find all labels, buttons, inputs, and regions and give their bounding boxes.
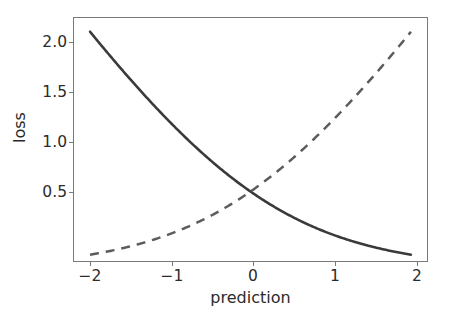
y-axis-label: loss xyxy=(10,83,29,173)
x-axis-label: prediction xyxy=(73,288,428,307)
xtick-label: 0 xyxy=(233,267,273,285)
xtick-label: −1 xyxy=(152,267,192,285)
xtick-mark xyxy=(172,262,173,266)
ytick-mark xyxy=(69,92,73,93)
curves-svg xyxy=(74,18,427,261)
xtick-mark xyxy=(335,262,336,266)
ytick-mark xyxy=(69,42,73,43)
series-solid-line xyxy=(90,32,411,255)
xtick-label: 1 xyxy=(315,267,355,285)
ytick-mark xyxy=(69,142,73,143)
series-dashed-line xyxy=(90,32,411,255)
xtick-mark xyxy=(90,262,91,266)
ytick-label: 0.5 xyxy=(17,183,67,201)
xtick-mark xyxy=(253,262,254,266)
xtick-label: −2 xyxy=(70,267,110,285)
ytick-label: 2.0 xyxy=(17,33,67,51)
xtick-mark xyxy=(417,262,418,266)
plot-area xyxy=(73,17,428,262)
ytick-mark xyxy=(69,192,73,193)
xtick-label: 2 xyxy=(397,267,437,285)
chart-figure: −2 −1 0 1 2 0.5 1.0 1.5 2.0 prediction l… xyxy=(0,0,462,318)
